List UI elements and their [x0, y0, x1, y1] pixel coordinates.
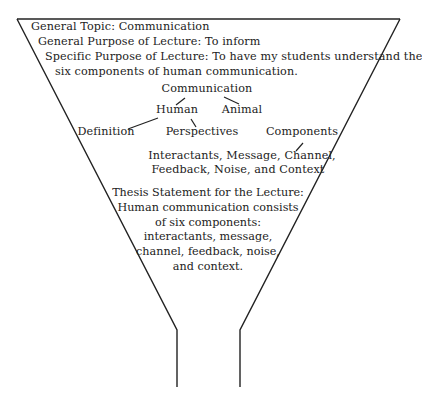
- specific-purpose-line2: six components of human communication.: [55, 65, 298, 79]
- tree-root-communication: Communication: [162, 82, 253, 96]
- thesis-line: Human communication consists: [112, 201, 304, 216]
- specific-purpose-line1: Specific Purpose of Lecture: To have my …: [45, 50, 422, 64]
- tree-node-perspectives: Perspectives: [166, 125, 239, 139]
- components-list-line1: Interactants, Message, Channel,: [148, 149, 336, 163]
- general-purpose: General Purpose of Lecture: To inform: [38, 35, 260, 49]
- tree-node-definition: Definition: [77, 125, 134, 139]
- tree-node-human: Human: [156, 103, 198, 117]
- tree-node-animal: Animal: [222, 103, 262, 117]
- thesis-line: interactants, message,: [112, 230, 304, 245]
- thesis-line: of six components:: [112, 216, 304, 231]
- thesis-line: Thesis Statement for the Lecture:: [112, 186, 304, 201]
- tree-node-components: Components: [266, 125, 338, 139]
- components-list-line2: Feedback, Noise, and Context: [152, 163, 325, 177]
- thesis-statement: Thesis Statement for the Lecture: Human …: [112, 186, 304, 275]
- thesis-line: and context.: [112, 260, 304, 275]
- general-topic: General Topic: Communication: [31, 20, 209, 34]
- thesis-line: channel, feedback, noise,: [112, 245, 304, 260]
